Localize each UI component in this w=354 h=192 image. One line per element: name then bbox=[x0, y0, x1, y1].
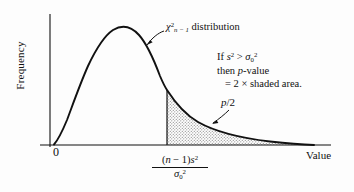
p-half-label: p/2 bbox=[221, 97, 235, 108]
note-greater-than: > bbox=[234, 51, 245, 62]
chi-subscript: n − 1 bbox=[174, 26, 189, 33]
distribution-label: χ2n − 1 distribution bbox=[166, 22, 240, 33]
numerator-s-superscript: 2 bbox=[195, 154, 198, 161]
threshold-numerator: (n − 1)s2 bbox=[143, 155, 217, 167]
distribution-word: distribution bbox=[191, 21, 239, 32]
origin-label: 0 bbox=[53, 146, 59, 158]
fraction-bar bbox=[152, 167, 208, 168]
note-line-pvalue: then p-value bbox=[217, 66, 302, 77]
note-line-result: = 2 × shaded area. bbox=[225, 79, 302, 90]
note-sigma-superscript: 2 bbox=[254, 51, 257, 58]
x-axis-label: Value bbox=[306, 150, 331, 161]
numerator-minus-one: − 1 bbox=[171, 154, 187, 165]
chi-squared-distribution-figure: Frequency Value 0 χ2n − 1 distribution I… bbox=[0, 0, 354, 192]
p-value-note: If s2 > σ02 then p-value = 2 × shaded ar… bbox=[217, 52, 302, 93]
denominator-superscript: 2 bbox=[183, 167, 186, 174]
y-axis-label: Frequency bbox=[15, 26, 26, 106]
note-if-word: If bbox=[217, 51, 227, 62]
threshold-denominator: σ02 bbox=[143, 169, 217, 180]
note-then-word: then bbox=[217, 65, 238, 76]
note-value-word: -value bbox=[243, 65, 269, 76]
threshold-statistic-label: (n − 1)s2 σ02 bbox=[143, 155, 217, 179]
p-half-divisor: /2 bbox=[227, 96, 236, 108]
distribution-label-arrow bbox=[147, 31, 164, 45]
note-line-condition: If s2 > σ02 bbox=[217, 52, 302, 63]
p-half-label-arrow bbox=[212, 110, 229, 124]
